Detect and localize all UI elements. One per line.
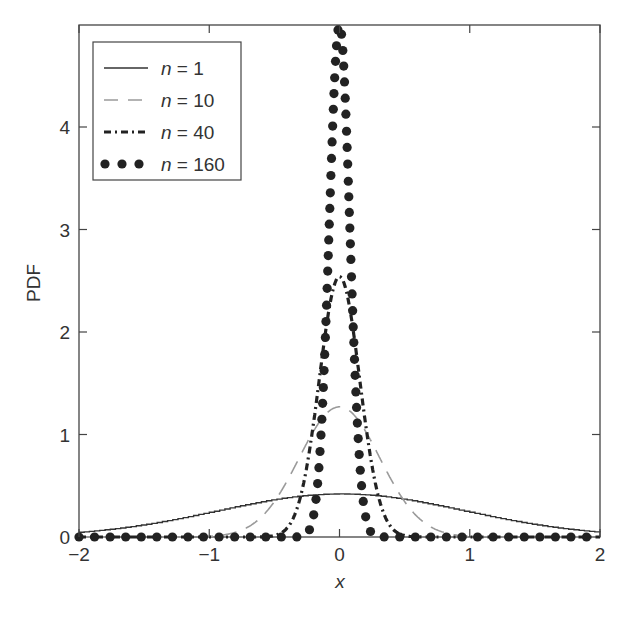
x-tick-label: 0: [334, 544, 345, 565]
legend-label: n = 10: [161, 90, 214, 111]
legend-swatch: [100, 159, 109, 168]
y-tick-label: 3: [59, 220, 70, 241]
legend-swatch: [134, 159, 143, 168]
x-tick-label: 1: [464, 544, 475, 565]
legend-label: n = 160: [161, 154, 225, 175]
y-tick-label: 2: [59, 322, 70, 343]
y-axis-label: PDF: [23, 264, 44, 302]
x-axis-label: x: [334, 571, 346, 592]
x-tick-label: 2: [595, 544, 606, 565]
legend: n = 1n = 10n = 40n = 160: [93, 42, 241, 180]
series-n1: [79, 494, 600, 532]
y-tick-label: 4: [59, 117, 70, 138]
x-tick-label: −1: [198, 544, 220, 565]
y-tick-label: 0: [59, 527, 70, 548]
series-n10: [79, 407, 600, 537]
x-tick-label: −2: [68, 544, 90, 565]
y-tick-label: 1: [59, 425, 70, 446]
legend-label: n = 1: [161, 58, 204, 79]
legend-swatch: [117, 159, 126, 168]
chart: −2−101201234 x PDF n = 1n = 10n = 40n = …: [0, 0, 626, 620]
legend-label: n = 40: [161, 122, 214, 143]
